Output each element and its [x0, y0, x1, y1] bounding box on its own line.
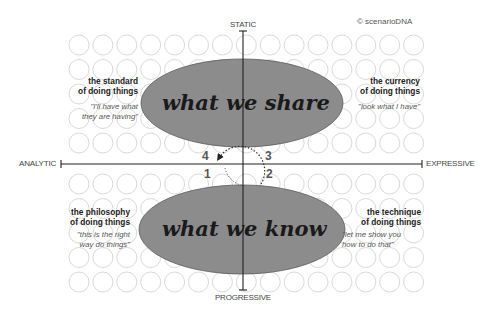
background-circle: [332, 248, 352, 268]
background-circle: [308, 35, 328, 55]
quadrant-quote: "I'll have what: [60, 102, 138, 112]
background-circle: [117, 248, 137, 268]
background-circle: [69, 174, 89, 194]
background-circle: [165, 35, 185, 55]
quadrant-title: the standard: [60, 76, 138, 86]
cycle-step-2: 2: [266, 167, 273, 181]
background-circle: [284, 35, 304, 55]
quadrant-quote: "let me show you: [340, 230, 421, 240]
ellipse-label-what-we-know: what we know: [162, 216, 324, 241]
background-circle: [284, 272, 304, 292]
quadrant-title: of doing things: [340, 217, 421, 227]
background-circle: [117, 133, 137, 153]
background-circle: [356, 272, 376, 292]
background-circle: [165, 174, 185, 194]
quadrant-top-left: the standard of doing things "I'll have …: [60, 76, 138, 122]
background-circle: [189, 35, 209, 55]
background-circle: [404, 35, 424, 55]
background-circle: [117, 272, 137, 292]
background-circle: [380, 133, 400, 153]
background-circle: [404, 133, 424, 153]
copyright-notice: © scenarioDNA: [357, 17, 412, 26]
background-circle: [212, 35, 232, 55]
background-circle: [380, 35, 400, 55]
cycle-step-1: 1: [204, 167, 211, 181]
background-circle: [69, 248, 89, 268]
background-circle: [93, 35, 113, 55]
background-circle: [356, 248, 376, 268]
background-circle: [141, 60, 161, 80]
background-circle: [141, 272, 161, 292]
quadrant-bottom-right: the technique of doing things "let me sh…: [340, 207, 421, 250]
background-circle: [380, 174, 400, 194]
quadrant-quote: how to do that": [340, 240, 421, 250]
axis-label-analytic: ANALYTIC: [0, 159, 56, 168]
cycle-arc-lower-dotted: [225, 168, 245, 186]
axis-label-static: STATIC: [223, 20, 263, 29]
quadrant-title: of doing things: [50, 217, 130, 227]
cycle-step-4: 4: [202, 149, 209, 163]
background-circle: [356, 174, 376, 194]
background-circle: [332, 133, 352, 153]
quadrant-top-right: the currency of doing things "look what …: [340, 76, 420, 112]
background-circle: [332, 35, 352, 55]
background-circle: [212, 272, 232, 292]
background-circle: [141, 133, 161, 153]
background-circle: [260, 35, 280, 55]
background-circle: [404, 272, 424, 292]
background-circle: [356, 35, 376, 55]
background-circle: [93, 248, 113, 268]
background-circle: [380, 248, 400, 268]
background-circle: [308, 133, 328, 153]
quadrant-bottom-left: the philosophy of doing things "this is …: [50, 207, 130, 250]
quadrant-title: of doing things: [340, 86, 420, 96]
background-circle: [117, 35, 137, 55]
background-circle: [69, 272, 89, 292]
background-circle: [236, 35, 256, 55]
background-circle: [308, 174, 328, 194]
background-circle: [260, 272, 280, 292]
background-circle: [141, 174, 161, 194]
ellipse-label-what-we-share: what we share: [162, 90, 324, 115]
cycle-step-3: 3: [265, 149, 272, 163]
quadrant-quote: way do things": [50, 240, 130, 250]
quadrant-title: the technique: [340, 207, 421, 217]
background-circle: [332, 174, 352, 194]
background-circle: [69, 35, 89, 55]
quadrant-title: the philosophy: [50, 207, 130, 217]
background-circle: [93, 272, 113, 292]
background-circle: [93, 174, 113, 194]
quadrant-title: the currency: [340, 76, 420, 86]
quadrant-title: of doing things: [60, 86, 138, 96]
quadrant-quote: they are having": [60, 112, 138, 122]
axis-label-expressive: EXPRESSIVE: [426, 159, 475, 168]
quadrant-quote: "look what I have": [340, 102, 420, 112]
background-circle: [380, 272, 400, 292]
background-circle: [236, 272, 256, 292]
diagram-canvas: [0, 0, 490, 318]
background-circle: [308, 272, 328, 292]
background-circle: [117, 174, 137, 194]
background-circle: [189, 272, 209, 292]
axis-label-progressive: PROGRESSIVE: [203, 293, 283, 302]
background-circle: [332, 272, 352, 292]
background-circle: [404, 174, 424, 194]
background-circle: [69, 133, 89, 153]
quadrant-quote: "this is the right: [50, 230, 130, 240]
background-circle: [141, 35, 161, 55]
background-circle: [404, 248, 424, 268]
background-circle: [356, 133, 376, 153]
background-circle: [165, 272, 185, 292]
background-circle: [93, 133, 113, 153]
